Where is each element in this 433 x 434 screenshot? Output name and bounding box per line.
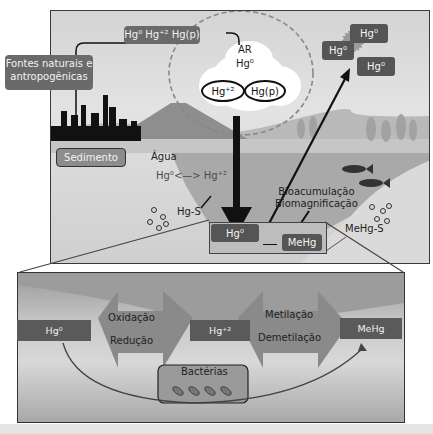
water-equilibrium: Hg⁰<—> Hg⁺² <box>156 170 227 181</box>
demethylation-label: Demetilação <box>258 332 321 343</box>
biomagnification-text: Biomagnificação <box>275 198 358 210</box>
reduction-label: Redução <box>110 335 153 346</box>
inset-mehg: MeHg <box>340 318 402 339</box>
biota-label: Bioacumulação Biomagnificação <box>275 186 358 210</box>
atm-hg0-3: Hg⁰ <box>357 57 395 76</box>
bottom-hg0: Hg⁰ <box>211 224 259 242</box>
methylation-label: Metilação <box>265 309 313 320</box>
bacteria-label: Bactérias <box>181 366 228 377</box>
water-label: Água <box>151 151 177 162</box>
air-hgp-oval: Hg(p) <box>244 80 286 102</box>
atm-hg0-1: Hg⁰ <box>350 24 388 43</box>
inset-shapes <box>18 273 404 422</box>
oxidation-label: Oxidação <box>108 312 155 323</box>
bioaccumulation-text: Bioacumulação <box>275 186 358 198</box>
water-sulfide: Hg-S <box>177 206 201 217</box>
inset-hg2: Hg⁺² <box>190 320 250 341</box>
mehg-sulfide: MeHg-S <box>345 223 384 234</box>
process-inset <box>17 272 405 423</box>
sources-label: Fontes naturais e antropogênicas <box>5 55 93 90</box>
air-hg2-oval: Hg⁺² <box>201 80 245 102</box>
atm-hg0-2: Hg⁰ <box>322 41 354 60</box>
bottom-mehg: MeHg <box>282 234 322 251</box>
air-label: AR <box>238 44 252 55</box>
sediment-label: Sedimento <box>56 148 126 167</box>
bottom-strip <box>0 424 433 434</box>
shells-icon <box>148 208 169 231</box>
inset-hg0: Hg⁰ <box>17 320 91 341</box>
methylation-small-arrow <box>263 244 277 245</box>
air-hg0: Hg⁰ <box>236 58 254 69</box>
city-skyline-icon <box>51 95 141 141</box>
emissions-label: Hg⁰ Hg⁺² Hg(p) <box>124 26 200 44</box>
